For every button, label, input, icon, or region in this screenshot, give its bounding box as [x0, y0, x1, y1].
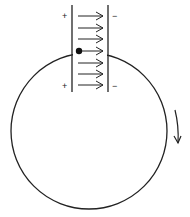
- plus-sign-top: +: [62, 11, 67, 21]
- minus-sign-top: −: [112, 11, 117, 21]
- charged-particle: [76, 48, 82, 54]
- minus-sign-bottom: −: [112, 81, 117, 91]
- clockwise-arrow-icon: [174, 110, 181, 143]
- plus-sign-bottom: +: [62, 81, 67, 91]
- diagram-canvas: + + − −: [0, 0, 190, 217]
